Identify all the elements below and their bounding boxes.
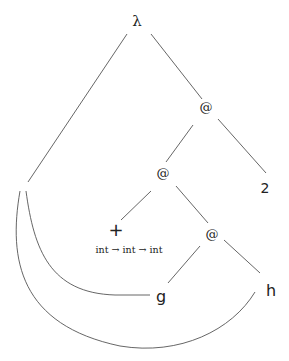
edge-app-inner-app-lower <box>176 186 208 223</box>
edge-app-inner-plus <box>121 191 151 220</box>
edge-app-lower-h <box>224 240 260 273</box>
lambda-node: λ <box>132 12 142 30</box>
lambda-term-graph: λ @ @ 2 + int → int → int @ g h <box>0 0 289 361</box>
var-g-node: g <box>156 287 166 306</box>
plus-node: + <box>108 219 123 240</box>
var-h-node: h <box>266 281 276 300</box>
edge-lambda-binder <box>28 34 127 182</box>
binder-edge-h <box>16 191 255 348</box>
edge-app-root-app-inner <box>166 125 193 162</box>
const-two-node: 2 <box>261 180 270 196</box>
edge-lambda-app-root <box>151 34 202 99</box>
binder-edge-g <box>26 191 150 295</box>
app-root-node: @ <box>200 100 213 115</box>
edge-app-root-two <box>218 119 266 173</box>
plus-type-label: int → int → int <box>96 244 163 255</box>
edge-app-lower-g <box>168 246 200 283</box>
app-lower-node: @ <box>206 227 219 242</box>
app-inner-node: @ <box>157 166 170 181</box>
